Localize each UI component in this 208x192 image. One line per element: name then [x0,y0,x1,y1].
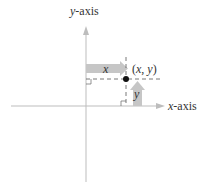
point-label-close-paren: ) [153,62,157,76]
x-axis-label: x-axis [168,100,197,112]
y-axis-arrowhead-icon [83,26,89,35]
y-axis-label: y-axis [70,5,99,17]
y-distance-label: y [134,88,139,100]
right-angle-marker-left [86,79,91,84]
x-distance-arrowhead-icon [120,61,128,76]
x-axis-label-suffix: -axis [173,99,196,113]
right-angle-marker-bottom [121,101,126,106]
coordinate-diagram [0,0,208,192]
x-distance-label: x [103,63,108,75]
point-label: (x, y) [132,63,157,75]
point-dot-icon [123,76,129,82]
y-axis-label-suffix: -axis [75,4,98,18]
x-axis-arrowhead-icon [156,103,165,109]
